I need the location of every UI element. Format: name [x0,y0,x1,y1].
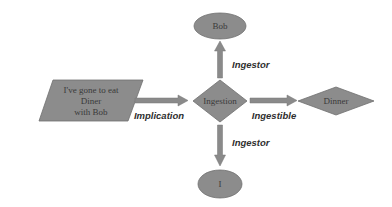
statement-line-2: Diner [81,96,102,106]
arrow-down-icon [215,125,226,166]
ingestible-edge[interactable]: Ingestible [250,95,297,121]
ingestor-up-label: Ingestor [232,59,271,70]
arrow-up-icon [215,41,226,78]
bob-node[interactable]: Bob [194,13,246,39]
statement-node[interactable]: I've gone to eat Diner with Bob [39,80,143,121]
ingestible-label: Ingestible [252,110,297,121]
ingestion-node[interactable]: Ingestion [193,80,247,122]
statement-line-3: with Bob [74,107,108,117]
ingestor-down-label: Ingestor [232,137,271,148]
arrow-right-icon [135,95,188,106]
ingestor-up-edge[interactable]: Ingestor [215,41,271,78]
ingestor-down-edge[interactable]: Ingestor [215,125,271,166]
ingestion-label: Ingestion [203,96,237,106]
bob-label: Bob [212,21,228,31]
diagram-canvas: I've gone to eat Diner with Bob Implicat… [0,0,392,207]
implication-edge[interactable]: Implication [134,95,188,121]
arrow-right-icon [250,95,297,106]
statement-line-1: I've gone to eat [64,85,119,95]
implication-label: Implication [134,110,184,121]
dinner-label: Dinner [324,96,349,106]
i-node[interactable]: I [198,170,242,198]
i-label: I [219,179,222,189]
dinner-node[interactable]: Dinner [298,87,374,115]
